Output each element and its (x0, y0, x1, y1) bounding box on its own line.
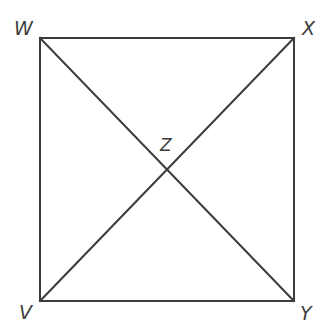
vertex-label-y: Y (300, 304, 312, 323)
intersection-label-z: Z (160, 137, 172, 154)
geometry-figure: W X Y V Z (0, 0, 331, 330)
vertex-label-x: X (302, 19, 315, 38)
vertex-label-v: V (19, 303, 32, 322)
square-diagram-svg (0, 0, 331, 330)
vertex-label-w: W (14, 19, 33, 38)
